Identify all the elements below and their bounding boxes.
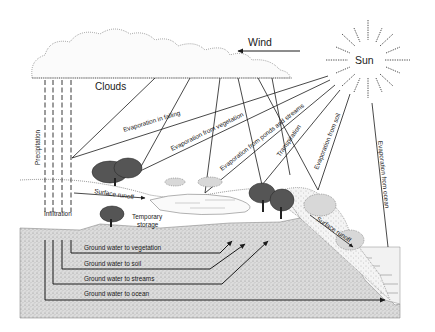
precipitation-lines <box>45 80 71 212</box>
temporary-storage-label-1: Temporary <box>132 213 163 221</box>
clouds-label: Clouds <box>95 81 126 92</box>
wind-label: Wind <box>248 36 272 48</box>
evaporation-from-vegetation-label: Evaporation from vegetation <box>169 110 245 152</box>
evaporation-in-falling-label: Evaporation in falling <box>122 109 182 134</box>
evaporation-from-ocean-label: Evaporation from ocean <box>376 140 391 209</box>
gw-ocean-label: Ground water to ocean <box>84 290 149 297</box>
pond <box>150 194 250 214</box>
precipitation-label: Precipitation <box>34 129 42 165</box>
gw-streams-label: Ground water to streams <box>84 275 154 282</box>
tree-cluster-left <box>92 158 142 186</box>
trees-pond-bank <box>165 177 222 187</box>
infiltration-label: Infiltration <box>44 210 72 217</box>
gw-soil-label: Ground water to soil <box>84 260 141 267</box>
surface-runoff-left-label: Surface runoff <box>94 187 135 200</box>
tree-temporary-storage <box>100 206 124 227</box>
temporary-storage-label-2: storage <box>137 221 159 229</box>
hydrologic-cycle-diagram: Clouds Wind Sun <box>0 0 435 332</box>
sun-label: Sun <box>355 54 374 66</box>
gw-vegetation-label: Ground water to vegetation <box>84 244 162 252</box>
